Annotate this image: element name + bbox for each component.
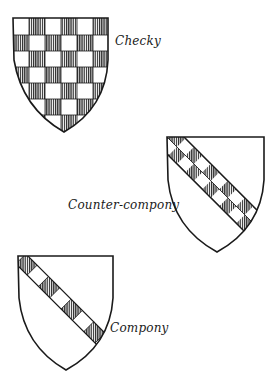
label-checky: Checky xyxy=(115,34,161,48)
label-compony: Compony xyxy=(110,321,169,335)
label-counter-compony: Counter-compony xyxy=(68,198,179,212)
checky-grid xyxy=(10,15,110,135)
shield-counter-compony xyxy=(151,121,274,252)
shield-checky xyxy=(10,15,110,135)
shield-compony xyxy=(6,244,115,370)
